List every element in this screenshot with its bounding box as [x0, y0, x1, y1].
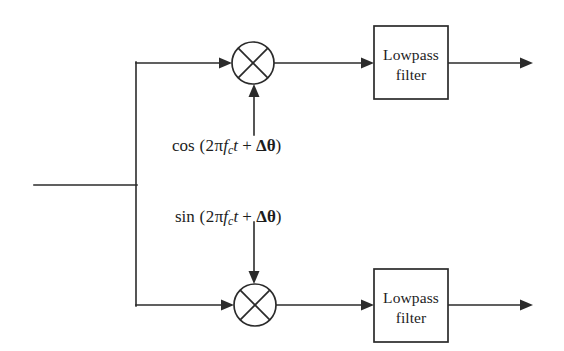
cosine-pi-symbol: π — [215, 136, 224, 155]
lowpass-filter-top-label-line2: filter — [374, 65, 448, 85]
quadrature-demodulator-diagram: Lowpass filter Lowpass filter cos (2πfct… — [0, 0, 564, 351]
arrowhead-bottom-filter-input — [361, 300, 374, 311]
cosine-theta-symbol: θ — [267, 136, 276, 155]
arrowhead-sine-carrier — [249, 271, 260, 284]
sine-theta-symbol: θ — [267, 207, 276, 226]
sine-function-name: sin — [175, 207, 195, 226]
arrowhead-cosine-carrier — [249, 84, 260, 97]
cosine-carrier-path — [249, 84, 260, 135]
lowpass-filter-top-label: Lowpass filter — [374, 45, 448, 85]
lowpass-filter-top-label-line1: Lowpass — [374, 45, 448, 65]
lowpass-filter-bottom-label-line1: Lowpass — [374, 288, 448, 308]
cosine-delta-symbol: Δ — [256, 136, 267, 155]
upper-branch-path — [136, 58, 533, 69]
cosine-function-name: cos — [172, 136, 195, 155]
arrowhead-bottom-output — [520, 300, 533, 311]
cosine-carrier-label: cos (2πfct + Δθ) — [172, 137, 281, 157]
mixer-bottom — [234, 284, 276, 326]
arrowhead-bottom-mixer-input — [221, 300, 234, 311]
sine-carrier-path — [249, 222, 260, 284]
lowpass-filter-bottom-label: Lowpass filter — [374, 288, 448, 328]
diagram-svg-layer — [0, 0, 564, 351]
lower-branch-path — [136, 300, 533, 311]
arrowhead-top-output — [520, 58, 533, 69]
lowpass-filter-bottom-label-line2: filter — [374, 308, 448, 328]
mixer-top — [232, 42, 274, 84]
arrowhead-top-filter-input — [361, 58, 374, 69]
input-signal-path — [34, 62, 137, 306]
sine-delta-symbol: Δ — [256, 207, 267, 226]
arrowhead-top-mixer-input — [219, 58, 232, 69]
sine-carrier-label: sin (2πfct + Δθ) — [175, 208, 281, 228]
